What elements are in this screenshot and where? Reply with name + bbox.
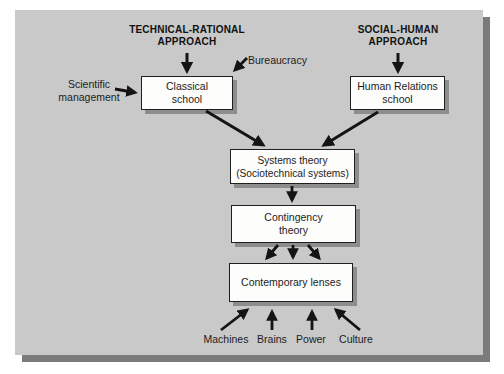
node-label: (Sociotechnical systems) [236, 167, 349, 180]
node-classical-school: Classical school [141, 76, 233, 110]
label-line: management [53, 91, 125, 104]
node-human-relations-school: Human Relations school [350, 76, 445, 110]
node-contingency-theory: Contingency theory [231, 205, 356, 243]
label-culture: Culture [331, 333, 381, 346]
heading-line: APPROACH [328, 36, 468, 48]
node-label: school [172, 93, 202, 106]
label-power: Power [286, 333, 336, 346]
heading-line: APPROACH [117, 36, 257, 48]
heading-line: SOCIAL-HUMAN [328, 24, 468, 36]
node-systems-theory: Systems theory (Sociotechnical systems) [230, 149, 355, 184]
heading-technical-rational-approach: TECHNICAL-RATIONAL APPROACH [117, 24, 257, 47]
label-scientific-management: Scientific management [53, 78, 125, 104]
node-label: Contingency [264, 211, 322, 224]
heading-social-human-approach: SOCIAL-HUMAN APPROACH [328, 24, 468, 47]
node-label: Systems theory [257, 154, 327, 167]
node-contemporary-lenses: Contemporary lenses [229, 263, 353, 302]
node-label: Contemporary lenses [241, 276, 341, 289]
label-bureaucracy: Bureaucracy [248, 54, 307, 67]
node-label: school [382, 93, 412, 106]
node-label: Human Relations [357, 80, 438, 93]
node-label: Classical [166, 80, 208, 93]
node-label: theory [279, 224, 308, 237]
heading-line: TECHNICAL-RATIONAL [117, 24, 257, 36]
figure-organization-theory-diagram: TECHNICAL-RATIONAL APPROACH SOCIAL-HUMAN… [0, 0, 504, 374]
label-line: Scientific [53, 78, 125, 91]
